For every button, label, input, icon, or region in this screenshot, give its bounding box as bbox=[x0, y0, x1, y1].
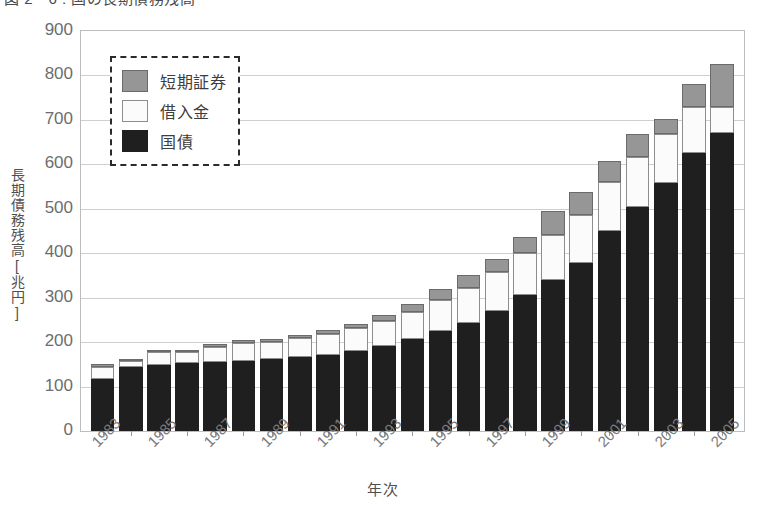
x-axis-tickmark bbox=[356, 431, 357, 436]
bar-segment[interactable] bbox=[598, 182, 622, 231]
bar-segment[interactable] bbox=[569, 215, 593, 263]
bar-segment[interactable] bbox=[541, 280, 565, 431]
x-axis-title: 年次 bbox=[0, 478, 765, 499]
y-axis-tick-label: 200 bbox=[13, 331, 73, 351]
bar-segment[interactable] bbox=[485, 272, 509, 311]
bar-segment[interactable] bbox=[119, 359, 143, 361]
legend-label: 短期証券 bbox=[160, 69, 226, 93]
bar-segment[interactable] bbox=[457, 275, 481, 288]
bar-segment[interactable] bbox=[710, 133, 734, 431]
bar-segment[interactable] bbox=[203, 344, 227, 347]
bar-segment[interactable] bbox=[429, 289, 453, 300]
bar-segment[interactable] bbox=[654, 119, 678, 134]
bar-segment[interactable] bbox=[682, 84, 706, 107]
bar-group[interactable] bbox=[513, 31, 537, 431]
bar-segment[interactable] bbox=[626, 134, 650, 157]
bar-group[interactable] bbox=[260, 31, 284, 431]
bar-segment[interactable] bbox=[654, 183, 678, 431]
bar-segment[interactable] bbox=[232, 340, 256, 343]
bar-segment[interactable] bbox=[288, 335, 312, 338]
bar-segment[interactable] bbox=[513, 253, 537, 295]
bar-group[interactable] bbox=[401, 31, 425, 431]
bar-segment[interactable] bbox=[232, 343, 256, 361]
bar-group[interactable] bbox=[429, 31, 453, 431]
bar-segment[interactable] bbox=[485, 259, 509, 272]
bar-segment[interactable] bbox=[91, 367, 115, 379]
bar-segment[interactable] bbox=[119, 367, 143, 431]
bar-segment[interactable] bbox=[316, 330, 340, 334]
bar-segment[interactable] bbox=[147, 350, 171, 352]
bar-segment[interactable] bbox=[457, 288, 481, 323]
x-axis-tickmark bbox=[469, 431, 470, 436]
bar-segment[interactable] bbox=[401, 339, 425, 431]
bar-segment[interactable] bbox=[541, 235, 565, 280]
legend-item[interactable]: 借入金 bbox=[122, 96, 226, 126]
bar-segment[interactable] bbox=[513, 237, 537, 253]
legend-label: 国債 bbox=[160, 129, 193, 153]
bar-segment[interactable] bbox=[654, 134, 678, 183]
bar-segment[interactable] bbox=[372, 315, 396, 322]
y-axis-tick-label: 700 bbox=[13, 109, 73, 129]
bar-group[interactable] bbox=[288, 31, 312, 431]
bar-segment[interactable] bbox=[598, 161, 622, 182]
bar-segment[interactable] bbox=[175, 350, 199, 352]
bar-segment[interactable] bbox=[541, 211, 565, 235]
legend-item[interactable]: 短期証券 bbox=[122, 66, 226, 96]
bar-segment[interactable] bbox=[372, 321, 396, 345]
bar-group[interactable] bbox=[598, 31, 622, 431]
bar-segment[interactable] bbox=[288, 357, 312, 431]
bar-group[interactable] bbox=[457, 31, 481, 431]
bar-segment[interactable] bbox=[626, 157, 650, 207]
y-axis-tick-label: 500 bbox=[13, 198, 73, 218]
x-axis-tickmark bbox=[638, 431, 639, 436]
bar-segment[interactable] bbox=[344, 328, 368, 351]
bar-group[interactable] bbox=[372, 31, 396, 431]
bar-segment[interactable] bbox=[260, 342, 284, 360]
bar-segment[interactable] bbox=[119, 361, 143, 367]
bar-segment[interactable] bbox=[598, 231, 622, 431]
legend-swatch bbox=[122, 70, 148, 92]
bar-segment[interactable] bbox=[682, 153, 706, 431]
bar-segment[interactable] bbox=[429, 300, 453, 331]
x-axis-tickmark bbox=[412, 431, 413, 436]
bar-segment[interactable] bbox=[513, 295, 537, 431]
bar-group[interactable] bbox=[654, 31, 678, 431]
bar-group[interactable] bbox=[485, 31, 509, 431]
bar-segment[interactable] bbox=[682, 107, 706, 153]
bar-segment[interactable] bbox=[710, 64, 734, 107]
bar-segment[interactable] bbox=[203, 347, 227, 363]
bar-segment[interactable] bbox=[344, 351, 368, 431]
bar-segment[interactable] bbox=[260, 339, 284, 342]
bar-segment[interactable] bbox=[344, 324, 368, 328]
y-axis-tick-label: 0 bbox=[13, 420, 73, 440]
bar-group[interactable] bbox=[569, 31, 593, 431]
x-axis-tickmark bbox=[187, 431, 188, 436]
legend-label: 借入金 bbox=[160, 99, 210, 123]
bar-group[interactable] bbox=[541, 31, 565, 431]
y-axis-tick-label: 400 bbox=[13, 242, 73, 262]
bar-segment[interactable] bbox=[569, 192, 593, 215]
x-axis-tickmark bbox=[300, 431, 301, 436]
bar-segment[interactable] bbox=[175, 363, 199, 431]
bar-group[interactable] bbox=[344, 31, 368, 431]
bar-segment[interactable] bbox=[710, 107, 734, 134]
x-axis-tickmark bbox=[694, 431, 695, 436]
bar-segment[interactable] bbox=[232, 361, 256, 431]
bar-segment[interactable] bbox=[91, 364, 115, 367]
bar-group[interactable] bbox=[682, 31, 706, 431]
bar-segment[interactable] bbox=[316, 334, 340, 355]
bar-segment[interactable] bbox=[401, 312, 425, 340]
bar-segment[interactable] bbox=[626, 207, 650, 431]
bar-segment[interactable] bbox=[457, 323, 481, 431]
bar-segment[interactable] bbox=[569, 263, 593, 431]
bar-segment[interactable] bbox=[147, 352, 171, 365]
bar-segment[interactable] bbox=[288, 338, 312, 358]
bar-segment[interactable] bbox=[401, 304, 425, 312]
bar-group[interactable] bbox=[710, 31, 734, 431]
y-axis-tick-label: 100 bbox=[13, 376, 73, 396]
bar-group[interactable] bbox=[626, 31, 650, 431]
bar-segment[interactable] bbox=[175, 352, 199, 364]
legend-item[interactable]: 国債 bbox=[122, 126, 226, 156]
x-axis-tickmark bbox=[131, 431, 132, 436]
bar-group[interactable] bbox=[316, 31, 340, 431]
